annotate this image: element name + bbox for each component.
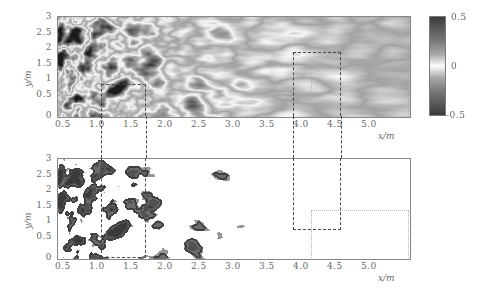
upper-xtick-4p0: 4.0 (293, 120, 309, 129)
figure-root: 3 2.5 2 1.5 1 0.5 0 y/m 0.5 1.0 1.5 2.0 … (0, 0, 491, 298)
upper-xtick-3p0: 3.0 (225, 120, 241, 129)
lower-xtick-3p0: 3.0 (225, 262, 241, 271)
upper-ytick-0: 0 (26, 111, 52, 120)
upper-ylabel: y/m (23, 65, 33, 87)
upper-xtick-3p5: 3.5 (259, 120, 275, 129)
lower-ytick-3: 3 (26, 154, 52, 163)
upper-xtick-0p5: 0.5 (55, 120, 71, 129)
upper-xlabel: x/m (378, 131, 395, 141)
lower-ytick-0p5: 0.5 (26, 232, 52, 241)
lower-xlabel: x/m (378, 273, 395, 283)
zoom-region-right-connector-b (341, 116, 342, 158)
upper-xtick-1p5: 1.5 (123, 120, 139, 129)
upper-xtick-2p0: 2.0 (157, 120, 173, 129)
zoom-region-right-connector-a (293, 116, 294, 158)
upper-ytick-3: 3 (26, 12, 52, 21)
zoom-region-right-lower (293, 158, 341, 230)
zoom-region-left-connector-b (146, 116, 147, 158)
zoom-region-left-upper (101, 84, 146, 116)
lower-xtick-1p5: 1.5 (123, 262, 139, 271)
lower-ytick-2: 2 (26, 185, 52, 194)
lower-xtick-1p0: 1.0 (89, 262, 105, 271)
colorbar-gradient (430, 17, 445, 115)
colorbar-tick-mid: 0 (451, 62, 457, 71)
lower-xtick-2p0: 2.0 (157, 262, 173, 271)
upper-ytick-0p5: 0.5 (26, 90, 52, 99)
upper-xtick-5p0: 5.0 (361, 120, 377, 129)
zoom-region-left-lower (101, 158, 146, 258)
lower-xtick-0p5: 0.5 (55, 262, 71, 271)
colorbar (429, 16, 446, 116)
lower-xtick-4p5: 4.5 (327, 262, 343, 271)
zoom-region-left-connector-a (101, 116, 102, 158)
lower-ytick-0: 0 (26, 253, 52, 262)
colorbar-tick-max: 0.5 (451, 13, 467, 22)
upper-xtick-2p5: 2.5 (191, 120, 207, 129)
upper-xtick-1p0: 1.0 (89, 120, 105, 129)
upper-ytick-2p5: 2.5 (26, 28, 52, 37)
lower-xtick-4p0: 4.0 (293, 262, 309, 271)
lower-xtick-5p0: 5.0 (361, 262, 377, 271)
lower-xtick-3p5: 3.5 (259, 262, 275, 271)
zoom-region-right-upper (293, 52, 341, 116)
lower-ylabel: y/m (23, 207, 33, 229)
colorbar-tick-min: -0.5 (446, 111, 465, 120)
lower-ytick-2p5: 2.5 (26, 170, 52, 179)
upper-ytick-2: 2 (26, 43, 52, 52)
lower-xtick-2p5: 2.5 (191, 262, 207, 271)
